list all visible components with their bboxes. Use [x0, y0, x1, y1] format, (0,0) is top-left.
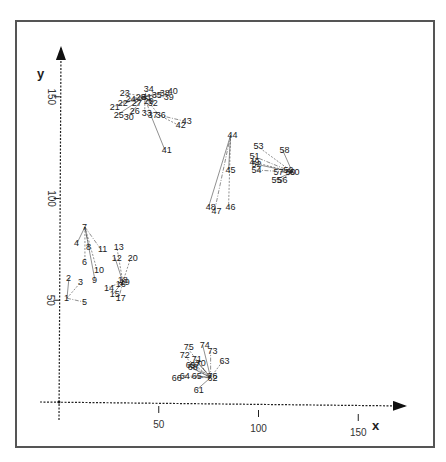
point-label: 13 — [114, 242, 124, 252]
point-label: 40 — [168, 86, 178, 96]
point-label: 75 — [184, 342, 194, 352]
origin-dot — [58, 401, 61, 404]
point-label: 8 — [86, 242, 91, 252]
point-label: 57 — [273, 167, 283, 177]
y-axis-title: y — [37, 66, 45, 81]
point-label: 17 — [116, 293, 126, 303]
point-label: 48 — [206, 202, 216, 212]
point-label: 9 — [92, 275, 97, 285]
point-label: 30 — [124, 112, 134, 122]
point-label: 54 — [252, 165, 262, 175]
point-label: 43 — [182, 116, 192, 126]
x-axis-title: x — [372, 418, 380, 433]
point-label: 76 — [208, 371, 218, 381]
y-tick-label: 150 — [46, 88, 57, 105]
point-label: 12 — [112, 253, 122, 263]
point-label: 41 — [162, 145, 172, 155]
point-label: 5 — [82, 297, 87, 307]
point-label: 46 — [226, 202, 236, 212]
point-label: 3 — [78, 277, 83, 287]
point-label: 45 — [226, 165, 236, 175]
point-label: 61 — [194, 385, 204, 395]
point-label: 25 — [114, 110, 124, 120]
point-label: 53 — [254, 141, 264, 151]
x-tick-label: 50 — [153, 419, 165, 430]
point-label: 60 — [289, 167, 299, 177]
x-axis — [40, 402, 405, 406]
point-label: 6 — [82, 257, 87, 267]
point-label: 1 — [64, 293, 69, 303]
point-label: 66 — [172, 373, 182, 383]
point-layer: 1234567891011121314151617181920212223242… — [64, 84, 299, 395]
point-label: 4 — [74, 238, 79, 248]
y-axis — [59, 48, 61, 420]
point-label: 11 — [98, 244, 107, 254]
x-tick-label: 100 — [250, 423, 267, 434]
x-tick-label: 150 — [350, 427, 367, 438]
tick-layer: 5010015050100150 — [45, 88, 367, 438]
point-label: 37 — [148, 110, 158, 120]
scatter-plot: 1234567891011121314151617181920212223242… — [0, 0, 446, 462]
y-tick-label: 100 — [46, 190, 57, 207]
y-tick-label: 50 — [45, 295, 56, 307]
point-label: 10 — [94, 265, 104, 275]
edge-layer — [67, 89, 292, 390]
point-label: 58 — [279, 145, 289, 155]
point-label: 20 — [128, 253, 138, 263]
point-label: 44 — [228, 130, 238, 140]
point-label: 2 — [66, 273, 71, 283]
point-label: 74 — [200, 340, 210, 350]
point-label: 7 — [82, 222, 87, 232]
point-label: 19 — [120, 277, 130, 287]
point-label: 63 — [220, 356, 230, 366]
point-label: 71 — [192, 354, 202, 364]
